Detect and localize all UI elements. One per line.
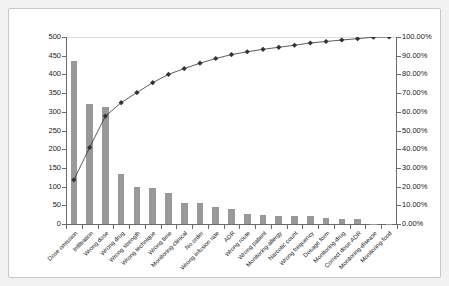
bar — [275, 216, 282, 224]
x-tick — [350, 225, 351, 229]
x-tick — [302, 225, 303, 229]
bar — [197, 203, 204, 224]
left-axis-tick-label: 150 — [31, 164, 61, 172]
left-axis-tick-label: 500 — [31, 33, 61, 41]
x-tick — [318, 225, 319, 229]
left-axis-tick-label: 400 — [31, 70, 61, 78]
bar — [71, 61, 78, 224]
x-tick — [208, 225, 209, 229]
bar — [354, 219, 361, 224]
left-axis-tick-label: 50 — [31, 201, 61, 209]
right-axis-tick-label: 30.00% — [402, 164, 448, 172]
right-axis-tick-label: 100.00% — [402, 33, 448, 41]
bar — [228, 209, 235, 224]
x-tick — [271, 225, 272, 229]
right-axis-tick-label: 40.00% — [402, 145, 448, 153]
bar — [118, 174, 125, 224]
x-tick — [397, 225, 398, 229]
bar — [370, 224, 377, 225]
chart-frame: 500450400350300250200150100500 100.00%90… — [8, 8, 441, 278]
left-axis-tick-label: 300 — [31, 108, 61, 116]
right-axis-tick-label: 90.00% — [402, 52, 448, 60]
left-axis-tick-label: 0 — [31, 220, 61, 228]
right-axis-tick-label: 50.00% — [402, 127, 448, 135]
x-tick — [82, 225, 83, 229]
bar — [260, 215, 267, 224]
x-tick — [192, 225, 193, 229]
left-axis-tick-label: 250 — [31, 127, 61, 135]
x-axis-line — [66, 224, 397, 225]
x-tick — [334, 225, 335, 229]
bar — [212, 207, 219, 224]
x-tick — [287, 225, 288, 229]
bar — [86, 104, 93, 224]
pareto-chart-page: 500450400350300250200150100500 100.00%90… — [0, 0, 449, 286]
left-axis-tick-label: 450 — [31, 52, 61, 60]
bar — [307, 216, 314, 224]
right-axis-tick-label: 20.00% — [402, 183, 448, 191]
x-tick — [255, 225, 256, 229]
x-tick — [113, 225, 114, 229]
right-axis-tick-label: 70.00% — [402, 89, 448, 97]
x-tick — [145, 225, 146, 229]
left-axis-tick-label: 100 — [31, 183, 61, 191]
bar — [181, 203, 188, 224]
bar — [165, 193, 172, 224]
left-axis-tick-label: 350 — [31, 89, 61, 97]
bars-layer — [66, 37, 397, 224]
bar — [134, 187, 141, 224]
right-axis-tick-label: 10.00% — [402, 201, 448, 209]
x-tick — [161, 225, 162, 229]
right-axis-tick-label: 60.00% — [402, 108, 448, 116]
bar — [244, 214, 251, 224]
x-tick — [239, 225, 240, 229]
bar — [323, 218, 330, 224]
x-tick — [98, 225, 99, 229]
right-axis-tick-label: 0.00% — [402, 220, 448, 228]
x-tick — [176, 225, 177, 229]
bar — [386, 224, 393, 225]
x-tick — [224, 225, 225, 229]
x-tick — [365, 225, 366, 229]
bar — [102, 107, 109, 224]
bar — [291, 216, 298, 224]
left-axis-tick-label: 200 — [31, 145, 61, 153]
bar — [149, 188, 156, 224]
right-axis-tick-label: 80.00% — [402, 70, 448, 78]
x-tick — [66, 225, 67, 229]
x-tick — [381, 225, 382, 229]
x-tick — [129, 225, 130, 229]
bar — [339, 219, 346, 224]
